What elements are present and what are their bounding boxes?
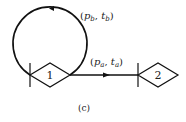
arrow-right-icon — [103, 73, 110, 78]
state-diagram: 1 2 (pb, tb) (pa, ta) (c) — [0, 0, 186, 122]
edge-1-to-2-label: (pa, ta) — [90, 56, 123, 69]
node-1: 1 — [30, 63, 70, 87]
edge-1-to-2 — [70, 73, 138, 78]
node-1-label: 1 — [47, 69, 54, 82]
self-loop-label: (pb, tb) — [80, 10, 114, 23]
node-2-label: 2 — [155, 69, 162, 82]
node-2: 2 — [138, 63, 178, 87]
figure-caption: (c) — [78, 103, 90, 113]
